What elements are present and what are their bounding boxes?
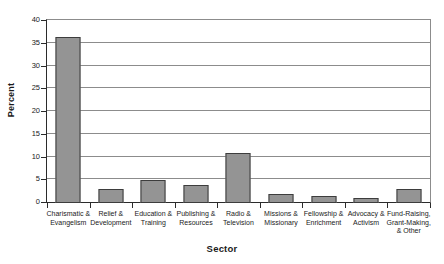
x-tick bbox=[47, 203, 48, 208]
bar bbox=[98, 189, 123, 203]
bar-slot bbox=[217, 20, 260, 203]
y-tick-10 bbox=[41, 157, 46, 158]
bars-layer bbox=[47, 20, 430, 203]
bar-slot bbox=[47, 20, 90, 203]
y-tick-0 bbox=[41, 202, 46, 203]
x-tick bbox=[90, 203, 91, 208]
y-tick-label: 10 bbox=[18, 153, 40, 161]
y-tick-label-wrap: 40 bbox=[12, 20, 40, 21]
bar-slot bbox=[345, 20, 388, 203]
y-tick-30 bbox=[41, 66, 46, 67]
y-tick-label-wrap: 15 bbox=[12, 134, 40, 135]
x-category-label: Fund-Raising, Grant-Making, & Other bbox=[383, 210, 434, 236]
bar bbox=[141, 180, 166, 203]
y-tick-label: 30 bbox=[18, 62, 40, 70]
bar bbox=[226, 153, 251, 203]
y-tick-label-wrap: 5 bbox=[12, 179, 40, 180]
y-tick-label-wrap: 35 bbox=[12, 43, 40, 44]
y-tick-35 bbox=[41, 43, 46, 44]
y-tick-label-wrap: 25 bbox=[12, 88, 40, 89]
y-tick-label-wrap: 20 bbox=[12, 111, 40, 112]
x-tick bbox=[217, 203, 218, 208]
bar-chart: Percent 0510152025303540 Charismatic & E… bbox=[0, 0, 444, 264]
y-tick-25 bbox=[41, 88, 46, 89]
x-tick bbox=[132, 203, 133, 208]
x-tick bbox=[175, 203, 176, 208]
y-tick-15 bbox=[41, 134, 46, 135]
bar bbox=[354, 198, 379, 203]
y-axis-title: Percent bbox=[6, 70, 16, 130]
bar-slot bbox=[132, 20, 175, 203]
bar-slot bbox=[302, 20, 345, 203]
bar-slot bbox=[260, 20, 303, 203]
bar bbox=[183, 185, 208, 203]
bar bbox=[269, 194, 294, 203]
bar-slot bbox=[90, 20, 133, 203]
bar-slot bbox=[387, 20, 430, 203]
bar bbox=[396, 189, 421, 203]
y-tick-label-wrap: 0 bbox=[12, 202, 40, 203]
x-tick bbox=[302, 203, 303, 208]
x-tick bbox=[387, 203, 388, 208]
y-tick-label-wrap: 30 bbox=[12, 66, 40, 67]
x-tick bbox=[345, 203, 346, 208]
y-tick-label: 35 bbox=[18, 39, 40, 47]
x-tick bbox=[260, 203, 261, 208]
y-tick-label: 40 bbox=[18, 16, 40, 24]
y-tick-label: 20 bbox=[18, 107, 40, 115]
y-tick-label: 25 bbox=[18, 84, 40, 92]
x-tick bbox=[430, 203, 431, 208]
bar bbox=[311, 196, 336, 203]
y-tick-label: 5 bbox=[18, 175, 40, 183]
bar bbox=[56, 37, 81, 203]
y-tick-20 bbox=[41, 111, 46, 112]
y-tick-label: 0 bbox=[18, 198, 40, 206]
y-tick-5 bbox=[41, 179, 46, 180]
y-tick-label: 15 bbox=[18, 130, 40, 138]
x-axis-labels: Charismatic & EvangelismRelief & Develop… bbox=[47, 210, 430, 246]
bar-slot bbox=[175, 20, 218, 203]
y-tick-40 bbox=[41, 20, 46, 21]
x-axis-title: Sector bbox=[0, 243, 444, 254]
y-tick-label-wrap: 10 bbox=[12, 157, 40, 158]
